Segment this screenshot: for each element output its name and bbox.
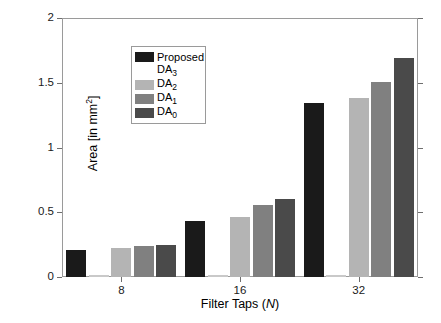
y-tick-label: 0.5 <box>38 207 54 219</box>
bar-proposed-n32 <box>304 103 324 277</box>
plot-area: 00.511.52 81632 ProposedDA3DA2DA1DA0 Are… <box>62 18 418 277</box>
y-tick-mark-right <box>418 277 423 278</box>
y-tick-mark <box>57 18 62 19</box>
bar-da2-n8 <box>111 248 131 277</box>
x-axis-title: Filter Taps (N) <box>62 298 418 311</box>
legend-item-da3[interactable]: DA3 <box>135 64 202 78</box>
legend-item-da2[interactable]: DA2 <box>135 78 202 92</box>
x-tick-label: 8 <box>118 285 124 297</box>
bar-proposed-n16 <box>185 221 205 277</box>
y-tick-mark <box>57 148 62 149</box>
y-axis-title-tail: ] <box>86 96 100 99</box>
y-tick-mark-right <box>418 212 423 213</box>
legend-label-base: DA <box>157 91 172 103</box>
legend-swatch-icon-da2 <box>135 80 154 90</box>
y-tick-mark <box>57 83 62 84</box>
bar-proposed-n8 <box>66 250 86 277</box>
x-tick-label: 16 <box>234 285 247 297</box>
legend-label-subscript: 0 <box>172 110 177 120</box>
x-tick-mark <box>121 277 122 282</box>
legend-item-da0[interactable]: DA0 <box>135 106 202 120</box>
bar-da1-n8 <box>134 246 154 277</box>
legend-label-base: DA <box>157 105 172 117</box>
chart-legend[interactable]: ProposedDA3DA2DA1DA0 <box>131 46 206 124</box>
bar-da1-n16 <box>253 205 273 277</box>
bar-da2-n32 <box>349 98 369 277</box>
x-tick-label: 32 <box>352 285 365 297</box>
y-tick-mark-right <box>418 18 423 19</box>
x-axis-title-symbol: (N) <box>258 297 279 311</box>
legend-item-proposed[interactable]: Proposed <box>135 50 202 64</box>
y-tick-label: 1.5 <box>38 77 54 89</box>
legend-label-base: DA <box>157 77 172 89</box>
y-axis-title-text: Area [in mm <box>86 104 100 171</box>
figure-canvas: 00.511.52 81632 ProposedDA3DA2DA1DA0 Are… <box>0 0 441 323</box>
legend-label-subscript: 1 <box>172 96 177 106</box>
legend-label-da0: DA0 <box>157 106 177 120</box>
y-tick-mark-right <box>418 148 423 149</box>
legend-label-da1: DA1 <box>157 92 177 106</box>
y-tick-mark-right <box>418 83 423 84</box>
legend-swatch-icon-da3 <box>135 66 154 76</box>
bar-da1-n32 <box>371 82 391 277</box>
bar-da3-n32 <box>326 275 346 277</box>
legend-label-da3: DA3 <box>157 64 177 78</box>
legend-label-subscript: 3 <box>172 68 177 78</box>
legend-label-base: DA <box>157 63 172 75</box>
bar-da3-n16 <box>208 275 228 277</box>
legend-label-subscript: 2 <box>172 82 177 92</box>
legend-swatch-icon-da1 <box>135 94 154 104</box>
legend-item-da1[interactable]: DA1 <box>135 92 202 106</box>
legend-swatch-icon-da0 <box>135 108 154 118</box>
x-axis-symbol-n: N <box>266 297 275 311</box>
bar-da2-n16 <box>230 217 250 277</box>
legend-label-da2: DA2 <box>157 78 177 92</box>
x-tick-mark <box>240 277 241 282</box>
x-axis-title-text: Filter Taps <box>201 297 258 311</box>
y-tick-mark <box>57 212 62 213</box>
y-axis-title: Area [in mm2] <box>85 43 100 223</box>
bar-da0-n8 <box>156 245 176 277</box>
y-tick-label: 2 <box>48 12 54 24</box>
y-tick-label: 1 <box>48 142 54 154</box>
bar-da3-n8 <box>89 275 109 277</box>
bar-da0-n32 <box>394 58 414 278</box>
legend-swatch-icon-proposed <box>135 52 154 62</box>
bar-da0-n16 <box>275 199 295 277</box>
legend-label-proposed: Proposed <box>157 52 204 63</box>
y-tick-mark <box>57 277 62 278</box>
y-axis-title-exponent: 2 <box>84 99 94 104</box>
y-tick-label: 0 <box>48 271 54 283</box>
x-tick-mark <box>359 277 360 282</box>
